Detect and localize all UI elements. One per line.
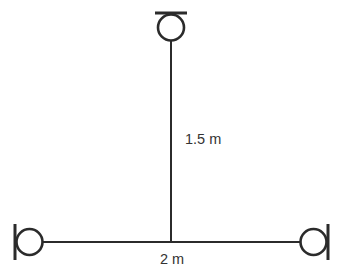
vertical-distance-label: 1.5 m [185, 131, 221, 147]
diagram-canvas: 1.5 m 2 m [0, 0, 340, 274]
horizontal-distance-label: 2 m [160, 251, 184, 267]
charges-triangle-diagram: 1.5 m 2 m [0, 0, 340, 274]
